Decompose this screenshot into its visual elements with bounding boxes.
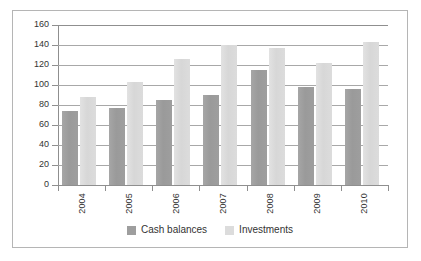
y-axis-tick-label: 40 (15, 140, 49, 149)
bar-cash-balances[interactable] (203, 95, 219, 185)
x-axis-tick-mark (247, 185, 248, 191)
bar-cash-balances[interactable] (298, 87, 314, 185)
bar-investments[interactable] (80, 97, 96, 185)
x-axis-tick-mark (152, 185, 153, 191)
bar-investments[interactable] (316, 63, 332, 185)
bar-group (58, 25, 105, 185)
y-axis-tick-mark (52, 65, 58, 66)
x-axis-tick-label: 2008 (265, 193, 311, 214)
bar-investments[interactable] (127, 82, 143, 185)
y-axis-tick-mark (52, 25, 58, 26)
x-axis-tick-mark (105, 185, 106, 191)
x-axis-tick-mark (388, 185, 389, 191)
bar-group (199, 25, 246, 185)
bar-group (152, 25, 199, 185)
x-axis-tick-label: 2009 (312, 193, 358, 214)
x-axis-tick-label: 2005 (124, 193, 170, 214)
y-axis-tick-mark (52, 85, 58, 86)
y-axis-tick-label: 140 (15, 40, 49, 49)
x-axis-tick-label: 2007 (218, 193, 264, 214)
y-axis-tick-mark (52, 45, 58, 46)
bar-cash-balances[interactable] (109, 108, 125, 185)
bar-cash-balances[interactable] (156, 100, 172, 185)
bar-group (341, 25, 388, 185)
legend-label: Cash balances (141, 225, 207, 235)
legend-item[interactable]: Investments (225, 225, 293, 235)
y-axis-tick-mark (52, 105, 58, 106)
y-axis-tick-label: 20 (15, 160, 49, 169)
y-axis-tick-label: 60 (15, 120, 49, 129)
bar-cash-balances[interactable] (251, 70, 267, 185)
bar-cash-balances[interactable] (62, 111, 78, 185)
bar-group (247, 25, 294, 185)
x-axis-tick-label: 2010 (359, 193, 405, 214)
y-axis-tick-label: 120 (15, 60, 49, 69)
y-axis-tick-mark (52, 145, 58, 146)
legend-label: Investments (239, 225, 293, 235)
x-axis-tick-mark (58, 185, 59, 191)
x-axis-tick-mark (294, 185, 295, 191)
y-axis-labels: 160140120100806040200 (13, 11, 49, 249)
y-axis-tick-label: 0 (15, 180, 49, 189)
y-axis-tick-label: 100 (15, 80, 49, 89)
x-axis-tick-label: 2004 (77, 193, 123, 214)
bar-chart-figure: 160140120100806040200 200420052006200720… (12, 10, 408, 248)
x-axis-line (58, 185, 389, 186)
legend-swatch-icon (127, 226, 136, 235)
plot-area (58, 25, 388, 185)
bar-investments[interactable] (174, 59, 190, 185)
legend-item[interactable]: Cash balances (127, 225, 207, 235)
legend-swatch-icon (225, 226, 234, 235)
x-axis-tick-mark (199, 185, 200, 191)
chart-legend: Cash balancesInvestments (13, 225, 407, 235)
y-axis-tick-label: 80 (15, 100, 49, 109)
x-axis-tick-label: 2006 (171, 193, 217, 214)
y-axis-tick-mark (52, 125, 58, 126)
bar-investments[interactable] (221, 45, 237, 185)
x-axis-tick-mark (341, 185, 342, 191)
bar-group (294, 25, 341, 185)
bar-cash-balances[interactable] (345, 89, 361, 185)
bar-group (105, 25, 152, 185)
bar-investments[interactable] (363, 42, 379, 185)
bar-investments[interactable] (269, 48, 285, 185)
y-axis-tick-mark (52, 165, 58, 166)
y-axis-tick-label: 160 (15, 20, 49, 29)
